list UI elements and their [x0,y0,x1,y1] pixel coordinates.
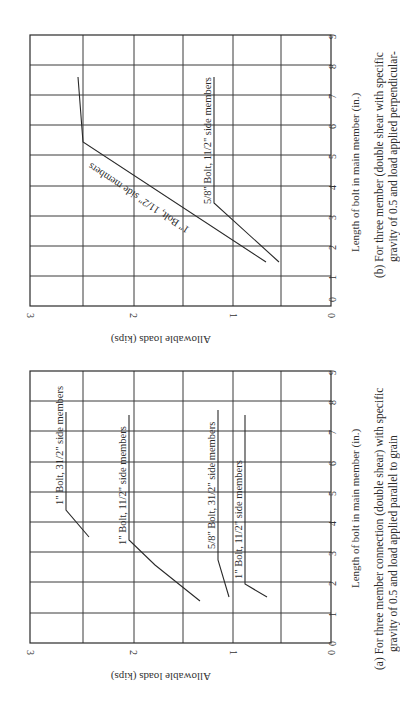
svg-text:2: 2 [128,313,139,318]
chart-a-caption-line-2: gravity of 0.5 and load applied parallel… [387,435,400,652]
chart-b-plot-frame [30,35,331,306]
svg-text:6: 6 [327,461,338,466]
svg-text:3: 3 [25,650,36,655]
svg-text:1: 1 [327,275,338,280]
svg-text:5: 5 [327,491,338,496]
svg-text:1: 1 [327,612,338,617]
chart-a-xlabel: Length of bolt in main member (in.) [349,429,362,588]
svg-text:7: 7 [327,430,338,435]
chart-b-curve-1-label: 1" Bolt, 11/2" side members [86,161,191,236]
chart-b-caption-line-1: (b) For three member (double shear with … [373,52,386,278]
svg-text:0: 0 [327,641,338,646]
chart-b-load-ticks: 3 2 1 0 [25,313,337,318]
chart-b-curve-2-label: 5/8" Bolt, 11/2" side members [202,77,213,204]
chart-a-grid [30,371,331,643]
svg-text:8: 8 [327,400,338,405]
svg-text:4: 4 [327,185,338,190]
svg-text:5: 5 [327,154,338,159]
svg-text:9: 9 [327,370,338,375]
svg-text:8: 8 [327,64,338,69]
chart-a-ylabel: Allowable loads (kips) [110,670,211,683]
chart-a-load-ticks: 3 2 1 0 [25,650,337,655]
svg-text:9: 9 [327,34,338,39]
chart-b-grid [30,35,331,306]
chart-a-curve-3-label: 5/8" Bolt, 31/2" side members [206,422,217,549]
svg-text:7: 7 [327,94,338,99]
svg-text:1: 1 [228,313,239,318]
chart-a-caption-line-1: (a) For three member connection (double … [373,388,386,670]
chart-a-curve-2-label: 1" Bolt, 11/2" side members [117,426,128,545]
chart-a-length-ticks: 0 1 2 3 4 5 6 7 8 9 [327,370,338,646]
svg-text:4: 4 [327,521,338,526]
svg-text:0: 0 [326,650,337,655]
chart-a-curve-1-label: 1" Bolt, 31/2" side members [54,386,65,505]
svg-text:6: 6 [327,124,338,129]
figure-canvas: 1" Bolt, 11/2" side members 5/8" Bolt, 1… [0,0,400,708]
svg-text:1: 1 [228,650,239,655]
chart-a-curve-1in-bolt-1-5-side [129,415,200,601]
svg-text:0: 0 [327,297,338,302]
chart-a-curve-5-8in-bolt-3-5-side [218,410,229,597]
chart-b: 1" Bolt, 11/2" side members 5/8" Bolt, 1… [25,34,400,346]
chart-a: 1" Bolt, 31/2" side members 1" Bolt, 11/… [25,370,400,683]
chart-a-curve-1in-bolt-1-5-side-lower [245,415,267,597]
svg-text:3: 3 [327,551,338,556]
chart-a-curve-4-label: 1" Bolt, 11/2" side members [233,460,244,579]
chart-b-length-ticks: 0 1 2 3 4 5 6 7 8 9 [327,34,338,302]
svg-text:2: 2 [128,650,139,655]
chart-b-curve-1in-bolt-1-5-side [78,77,266,262]
svg-text:2: 2 [327,245,338,250]
svg-text:0: 0 [326,313,337,318]
svg-text:2: 2 [327,581,338,586]
chart-b-caption-line-2: gravity of 0.5 and load applied perpendi… [387,51,400,262]
chart-a-plot-frame [30,371,331,643]
chart-b-xlabel: Length of bolt in main member (in.) [349,93,362,252]
chart-b-ylabel: Allowable loads (kips) [110,333,211,346]
svg-text:3: 3 [327,215,338,220]
svg-text:3: 3 [25,313,36,318]
